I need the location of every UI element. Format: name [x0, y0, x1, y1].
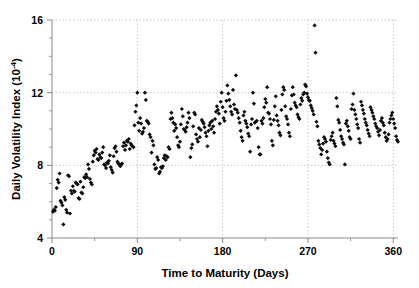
data-point [312, 23, 316, 27]
data-point [226, 91, 230, 95]
data-point [55, 186, 59, 190]
data-point [142, 126, 146, 130]
data-point [361, 108, 365, 112]
data-point [152, 162, 156, 166]
data-point [263, 97, 267, 101]
data-point [355, 122, 359, 126]
data-point [205, 144, 209, 148]
data-point [149, 151, 153, 155]
data-point [189, 146, 193, 150]
data-point [232, 102, 236, 106]
data-point [312, 112, 316, 116]
data-point [276, 119, 280, 123]
data-point [314, 120, 318, 124]
y-tick-label-8: 8 [37, 159, 43, 171]
data-point [191, 124, 195, 128]
data-point [288, 134, 292, 138]
data-point [185, 121, 189, 125]
data-point [268, 117, 272, 121]
y-tick-labels: 481216 [31, 14, 43, 244]
data-point [212, 131, 216, 135]
data-point [190, 142, 194, 146]
data-point [275, 113, 279, 117]
data-point [225, 83, 229, 87]
data-point [181, 114, 185, 118]
data-point [169, 111, 173, 115]
data-point [61, 222, 65, 226]
data-point [269, 122, 273, 126]
data-point [265, 85, 269, 89]
x-tick-label-0: 0 [49, 245, 55, 257]
data-point [264, 101, 268, 105]
data-point [228, 104, 232, 108]
data-point [276, 123, 280, 127]
data-point [220, 91, 224, 95]
scatter-plot: 090180270360 481216 Time to Maturity (Da… [0, 0, 419, 288]
data-point [91, 160, 95, 164]
data-point [150, 139, 154, 143]
data-point [279, 108, 283, 112]
y-axis-title-base: Daily Volatility Index (10 [10, 69, 22, 200]
data-point [262, 105, 266, 109]
data-point [234, 73, 238, 77]
data-point [114, 150, 118, 154]
data-point [194, 132, 198, 136]
data-point [360, 103, 364, 107]
gridlines [52, 20, 398, 238]
data-point [289, 107, 293, 111]
y-axis-title: Daily Volatility Index (10-4) [9, 58, 22, 200]
data-point [359, 100, 363, 104]
data-point [238, 121, 242, 125]
data-point [363, 117, 367, 121]
data-point [334, 96, 338, 100]
x-tick-label-360: 360 [384, 245, 402, 257]
data-point [78, 180, 82, 184]
data-point [188, 155, 192, 159]
data-point [248, 150, 252, 154]
data-point [134, 103, 138, 107]
data-point [272, 118, 276, 122]
data-point [186, 111, 190, 115]
data-point [291, 85, 295, 89]
data-point [286, 122, 290, 126]
data-point [273, 104, 277, 108]
y-axis-title-tail: ) [10, 58, 22, 62]
data-point [231, 88, 235, 92]
data-point [383, 131, 387, 135]
data-point [330, 134, 334, 138]
data-point [316, 139, 320, 143]
data-point [343, 162, 347, 166]
data-point [298, 102, 302, 106]
data-point [151, 143, 155, 147]
data-point [180, 107, 184, 111]
data-point [317, 142, 321, 146]
data-point [250, 117, 254, 121]
data-point [315, 124, 319, 128]
y-tick-label-12: 12 [31, 87, 43, 99]
data-point [287, 131, 291, 135]
data-point [335, 104, 339, 108]
data-point [223, 110, 227, 114]
data-point [377, 133, 381, 137]
data-point [283, 104, 287, 108]
data-point [252, 101, 256, 105]
data-point [249, 122, 253, 126]
data-point [392, 121, 396, 125]
y-tick-label-16: 16 [31, 14, 43, 26]
data-point [71, 184, 75, 188]
data-point [178, 140, 182, 144]
data-point [356, 126, 360, 130]
data-point [350, 102, 354, 106]
data-point [218, 121, 222, 125]
axis-ticks [47, 20, 393, 243]
data-point [362, 111, 366, 115]
data-point [240, 139, 244, 143]
data-point [237, 116, 241, 120]
data-point [128, 147, 132, 151]
data-point [271, 143, 275, 147]
x-tick-label-90: 90 [131, 245, 143, 257]
data-point [57, 171, 61, 175]
data-point [257, 145, 261, 149]
data-point [325, 150, 329, 154]
data-point [132, 123, 136, 127]
